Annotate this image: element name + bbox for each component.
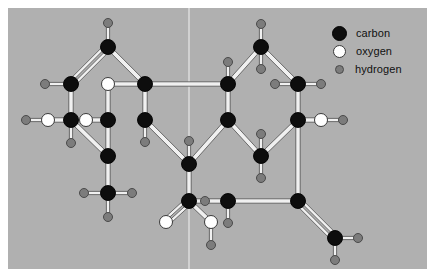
hydrogen-atom-icon bbox=[335, 65, 344, 74]
hydrogen-atom bbox=[354, 234, 363, 243]
atom-layer bbox=[22, 19, 363, 265]
hydrogen-atom bbox=[224, 58, 233, 67]
legend-item-hydrogen: hydrogen bbox=[330, 61, 402, 78]
carbon-atom bbox=[101, 40, 116, 55]
hydrogen-atom bbox=[257, 174, 266, 183]
legend-item-carbon: carbon bbox=[330, 25, 390, 42]
carbon-atom bbox=[254, 40, 269, 55]
hydrogen-atom bbox=[224, 219, 233, 228]
hydrogen-atom bbox=[257, 130, 266, 139]
figure-container: carbon oxygen hydrogen bbox=[0, 0, 435, 277]
legend: carbon oxygen hydrogen bbox=[330, 25, 427, 81]
hydrogen-atom bbox=[67, 139, 76, 148]
hydrogen-atom bbox=[22, 116, 31, 125]
carbon-atom bbox=[138, 113, 153, 128]
hydrogen-atom bbox=[271, 80, 280, 89]
carbon-atom bbox=[101, 149, 116, 164]
single-bond bbox=[296, 120, 300, 201]
oxygen-atom bbox=[160, 216, 173, 229]
carbon-atom bbox=[182, 194, 197, 209]
diagram-panel: carbon oxygen hydrogen bbox=[8, 8, 427, 269]
carbon-atom bbox=[101, 186, 116, 201]
carbon-atom bbox=[221, 77, 236, 92]
carbon-atom bbox=[101, 113, 116, 128]
hydrogen-atom bbox=[207, 241, 216, 250]
carbon-atom bbox=[221, 194, 236, 209]
hydrogen-atom bbox=[201, 197, 210, 206]
hydrogen-atom bbox=[317, 80, 326, 89]
carbon-atom bbox=[138, 77, 153, 92]
carbon-atom bbox=[254, 149, 269, 164]
carbon-atom bbox=[328, 231, 343, 246]
legend-label-carbon: carbon bbox=[356, 27, 390, 40]
hydrogen-atom bbox=[104, 19, 113, 28]
hydrogen-atom bbox=[339, 116, 348, 125]
oxygen-atom bbox=[315, 114, 328, 127]
oxygen-atom-icon bbox=[333, 45, 346, 58]
carbon-atom bbox=[221, 113, 236, 128]
oxygen-atom bbox=[80, 114, 93, 127]
hydrogen-atom bbox=[331, 256, 340, 265]
single-bond bbox=[145, 82, 228, 86]
hydrogen-atom bbox=[128, 189, 137, 198]
carbon-atom bbox=[64, 113, 79, 128]
carbon-atom bbox=[182, 157, 197, 172]
single-bond bbox=[228, 199, 298, 203]
carbon-atom-icon bbox=[332, 26, 347, 41]
carbon-atom bbox=[291, 77, 306, 92]
carbon-atom bbox=[64, 77, 79, 92]
hydrogen-atom bbox=[80, 189, 89, 198]
legend-label-hydrogen: hydrogen bbox=[355, 63, 402, 76]
carbon-atom bbox=[291, 113, 306, 128]
hydrogen-atom bbox=[104, 213, 113, 222]
hydrogen-atom bbox=[41, 80, 50, 89]
legend-item-oxygen: oxygen bbox=[330, 43, 392, 60]
hydrogen-atom bbox=[141, 138, 150, 147]
legend-label-oxygen: oxygen bbox=[356, 45, 392, 58]
oxygen-atom bbox=[205, 216, 218, 229]
hydrogen-atom bbox=[185, 137, 194, 146]
hydrogen-atom bbox=[257, 20, 266, 29]
carbon-atom bbox=[291, 194, 306, 209]
oxygen-atom bbox=[102, 78, 115, 91]
oxygen-atom bbox=[42, 114, 55, 127]
hydrogen-atom bbox=[257, 65, 266, 74]
